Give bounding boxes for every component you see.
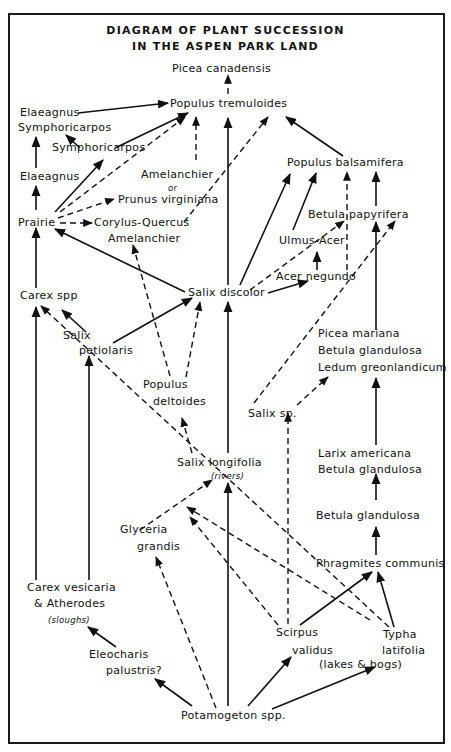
node-picea-mariana-line-1: Picea mariana — [318, 327, 400, 340]
node-salix-sp: Salix sp. — [248, 407, 297, 420]
arrow-elaeagnus-symph-to-populus-trem — [78, 103, 168, 113]
arrow-salix-pet-to-salix-discolor — [113, 298, 192, 343]
node-carex-vesicaria-line-1: Carex vesicaria — [27, 581, 116, 594]
arrow-prairie-to-symph — [55, 160, 103, 212]
node-larix-line-2: Betula glandulosa — [318, 463, 422, 476]
node-picea-mariana-line-2: Betula glandulosa — [318, 344, 422, 357]
node-carex-spp: Carex spp — [20, 289, 78, 302]
arrow-populus-delt-to-salix-discolor — [186, 302, 200, 377]
arrow-potamogeton-to-eleocharis — [155, 679, 192, 706]
arrow-potamogeton-to-scirpus — [248, 657, 291, 706]
arrow-potamogeton-to-typha — [272, 667, 375, 709]
arrow-scirpus-to-glyceria-region — [190, 517, 278, 625]
node-populus-deltoides-line-2: deltoides — [153, 395, 206, 408]
node-phragmites-communis: Phragmites communis — [316, 557, 445, 570]
node-salix-petiolaris-line-2: petiolaris — [79, 344, 133, 357]
node-glyceria-line-1: Glyceria — [120, 523, 168, 536]
node-salix-longifolia-note: (rivers) — [211, 470, 244, 483]
node-elaeagnus-symph-line-2: Symphoricarpos — [18, 121, 111, 134]
node-ulmus-acer: Ulmus-Acer — [279, 234, 345, 247]
arrow-populus-bals-to-populus-trem — [286, 117, 343, 156]
node-acer-negundo: Acer negundo — [276, 270, 356, 283]
node-salix-longifolia: Salix longifolia — [177, 456, 262, 469]
node-picea-canadensis: Picea canadensis — [172, 62, 271, 75]
node-prairie: Prairie — [18, 216, 55, 229]
node-lakes-bogs-note: (lakes & bogs) — [319, 658, 402, 671]
arrow-salix-long-to-populus-delt — [182, 418, 192, 453]
node-typha-line-1: Typha — [383, 628, 417, 641]
node-amelanchier-or-line-1: Amelanchier — [141, 168, 213, 181]
node-betula-papyrifera: Betula papyrifera — [308, 208, 409, 221]
arrow-salix-discolor-to-populus-bals — [240, 174, 290, 285]
node-populus-tremuloides: Populus tremuloides — [170, 97, 287, 110]
node-picea-mariana-line-3: Ledum greonlandicum — [318, 361, 447, 374]
diagram-title-line-1: DIAGRAM OF PLANT SUCCESSION — [0, 24, 451, 38]
node-scirpus-line-1: Scirpus — [276, 626, 318, 639]
node-larix-line-1: Larix americana — [318, 447, 411, 460]
arrow-eleocharis-to-carex-ves — [88, 627, 116, 647]
node-potamogeton-spp: Potamogeton spp. — [181, 709, 286, 722]
node-elaeagnus-symph-line-1: Elaeagnus — [20, 106, 80, 119]
node-scirpus-line-2: validus — [292, 644, 333, 657]
arrow-salix-sp-to-picea-mariana — [297, 377, 328, 405]
plant-succession-diagram: DIAGRAM OF PLANT SUCCESSION IN THE ASPEN… — [0, 0, 451, 752]
node-amelanchier: Amelanchier — [108, 232, 180, 245]
node-populus-balsamifera: Populus balsamifera — [287, 156, 404, 169]
node-salix-discolor: Salix discolor — [188, 286, 265, 299]
arrow-populus-delt-to-amelanchier — [133, 245, 170, 376]
node-eleocharis-line-1: Eleocharis — [89, 648, 149, 661]
node-glyceria-line-2: grandis — [137, 540, 180, 553]
node-typha-line-2: latifolia — [382, 644, 425, 657]
node-amelanchier-or-line-3: Prunus virginiana — [118, 193, 219, 206]
node-carex-vesicaria-note: (sloughs) — [48, 614, 90, 627]
node-carex-vesicaria-line-2: & Atherodes — [34, 597, 105, 610]
node-corylus-quercus: Corylus-Quercus — [94, 216, 190, 229]
node-salix-petiolaris-line-1: Salix — [63, 329, 91, 342]
node-eleocharis-line-2: palustris? — [106, 664, 162, 677]
arrow-ulmus-to-populus-bals — [293, 173, 316, 230]
node-symphoricarpos: Symphoricarpos — [52, 141, 145, 154]
arrow-salix-sp-to-betula-pap — [254, 221, 395, 403]
node-elaeagnus: Elaeagnus — [20, 170, 80, 183]
diagram-title-line-2: IN THE ASPEN PARK LAND — [0, 40, 451, 54]
node-betula-glandulosa: Betula glandulosa — [316, 509, 420, 522]
node-populus-deltoides-line-1: Populus — [143, 378, 188, 391]
